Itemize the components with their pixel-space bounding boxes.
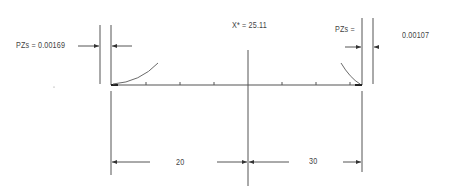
dim-left-label: 20 — [176, 157, 184, 167]
x-star-label: X* = 25.11 — [232, 20, 267, 30]
left-deflection-curve — [113, 63, 158, 84]
right-deflection-curve — [341, 63, 360, 84]
beam-diagram — [0, 0, 452, 193]
right-pzs-value: 0.00107 — [402, 30, 429, 40]
left-pzs-label: PZs = 0.00169 — [16, 40, 65, 50]
stray-mark — [53, 86, 54, 87]
right-pzs-name: PZs = — [335, 24, 355, 34]
dim-right-label: 30 — [309, 156, 317, 166]
